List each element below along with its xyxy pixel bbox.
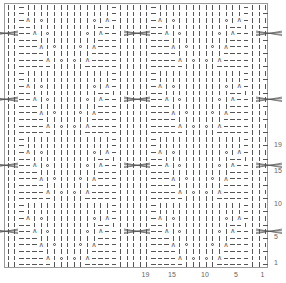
knit-symbol bbox=[64, 4, 71, 11]
purl-symbol bbox=[262, 103, 269, 110]
purl-symbol bbox=[97, 169, 104, 176]
purl-symbol bbox=[150, 103, 157, 110]
knit-symbol bbox=[124, 129, 131, 136]
knit-symbol bbox=[124, 77, 131, 84]
knit-symbol bbox=[71, 176, 78, 183]
knit-symbol bbox=[183, 123, 190, 130]
knit-symbol bbox=[190, 261, 197, 268]
purl-symbol bbox=[25, 44, 32, 51]
knit-symbol bbox=[216, 136, 223, 143]
decrease-icon: ʌ bbox=[216, 189, 223, 196]
purl-symbol bbox=[97, 103, 104, 110]
purl-symbol bbox=[97, 176, 104, 183]
knit-symbol bbox=[97, 77, 104, 84]
knit-symbol bbox=[51, 195, 58, 202]
knit-symbol bbox=[177, 222, 184, 229]
decrease-icon: ʌ bbox=[25, 17, 32, 24]
knit-symbol bbox=[183, 77, 190, 84]
purl-symbol bbox=[25, 37, 32, 44]
knit-symbol bbox=[223, 4, 230, 11]
knit-symbol bbox=[216, 143, 223, 150]
purl-symbol bbox=[157, 228, 164, 235]
knit-symbol bbox=[78, 222, 85, 229]
knit-symbol bbox=[262, 242, 269, 249]
purl-symbol bbox=[25, 103, 32, 110]
purl-symbol bbox=[150, 96, 157, 103]
knit-symbol bbox=[170, 90, 177, 97]
knit-symbol bbox=[183, 11, 190, 18]
knit-symbol bbox=[124, 156, 131, 163]
knit-symbol bbox=[12, 182, 19, 189]
knit-symbol bbox=[170, 169, 177, 176]
knit-symbol bbox=[170, 103, 177, 110]
knit-symbol bbox=[223, 136, 230, 143]
purl-symbol bbox=[25, 30, 32, 37]
purl-symbol bbox=[236, 235, 243, 242]
purl-symbol bbox=[111, 261, 118, 268]
knit-symbol bbox=[144, 4, 151, 11]
purl-symbol bbox=[25, 24, 32, 31]
knit-symbol bbox=[71, 50, 78, 57]
knit-symbol bbox=[84, 50, 91, 57]
knit-symbol bbox=[144, 63, 151, 70]
purl-symbol bbox=[157, 261, 164, 268]
purl-symbol bbox=[104, 44, 111, 51]
yarn-over-icon bbox=[38, 83, 45, 90]
knit-symbol bbox=[124, 261, 131, 268]
row-number-label: 1 bbox=[274, 259, 278, 266]
knit-symbol bbox=[196, 149, 203, 156]
knit-symbol bbox=[58, 156, 65, 163]
knit-symbol bbox=[196, 57, 203, 64]
knit-symbol bbox=[157, 143, 164, 150]
yarn-over-icon bbox=[78, 176, 85, 183]
purl-symbol bbox=[45, 261, 52, 268]
purl-symbol bbox=[262, 129, 269, 136]
purl-symbol bbox=[25, 248, 32, 255]
knit-symbol bbox=[183, 209, 190, 216]
knit-symbol bbox=[58, 209, 65, 216]
knit-symbol bbox=[196, 189, 203, 196]
purl-symbol bbox=[229, 44, 236, 51]
purl-symbol bbox=[223, 195, 230, 202]
knit-symbol bbox=[170, 70, 177, 77]
purl-symbol bbox=[229, 261, 236, 268]
knit-symbol bbox=[210, 96, 217, 103]
knit-symbol bbox=[130, 17, 137, 24]
purl-symbol bbox=[25, 96, 32, 103]
purl-symbol bbox=[18, 235, 25, 242]
purl-symbol bbox=[236, 255, 243, 262]
purl-symbol bbox=[111, 77, 118, 84]
knit-symbol bbox=[196, 129, 203, 136]
purl-symbol bbox=[229, 50, 236, 57]
knit-symbol bbox=[256, 242, 263, 249]
purl-symbol bbox=[243, 70, 250, 77]
knit-symbol bbox=[210, 202, 217, 209]
knit-symbol bbox=[5, 70, 12, 77]
knit-symbol bbox=[196, 136, 203, 143]
purl-symbol bbox=[18, 70, 25, 77]
knit-symbol bbox=[117, 4, 124, 11]
knit-symbol bbox=[249, 255, 256, 262]
purl-symbol bbox=[262, 37, 269, 44]
purl-symbol bbox=[157, 182, 164, 189]
decrease-icon: ʌ bbox=[104, 215, 111, 222]
knit-symbol bbox=[210, 116, 217, 123]
purl-symbol bbox=[104, 182, 111, 189]
knit-symbol bbox=[216, 182, 223, 189]
purl-symbol bbox=[243, 4, 250, 11]
knit-symbol bbox=[249, 156, 256, 163]
purl-symbol bbox=[157, 96, 164, 103]
purl-symbol bbox=[31, 255, 38, 262]
purl-symbol bbox=[104, 90, 111, 97]
purl-symbol bbox=[157, 24, 164, 31]
purl-symbol bbox=[243, 255, 250, 262]
knit-symbol bbox=[5, 182, 12, 189]
knit-symbol bbox=[183, 103, 190, 110]
purl-symbol bbox=[243, 235, 250, 242]
knit-symbol bbox=[249, 30, 256, 37]
purl-symbol bbox=[223, 63, 230, 70]
knit-symbol bbox=[5, 189, 12, 196]
knit-symbol bbox=[12, 149, 19, 156]
knit-symbol bbox=[5, 215, 12, 222]
knit-symbol bbox=[170, 37, 177, 44]
